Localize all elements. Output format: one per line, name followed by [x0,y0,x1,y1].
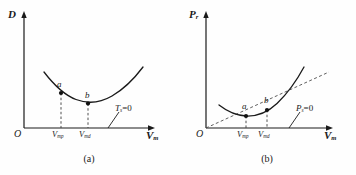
panel-a: D O Vm a b Vmp Vmd Ts=0 (a) [0,0,178,175]
annotation-leader-line [289,112,300,128]
point-a-label: a [242,102,247,111]
point-b-label: b [264,96,269,105]
x-axis-label-sub: m [153,134,158,141]
point-a-marker [59,91,63,95]
y-axis-label-sub: r [196,13,199,20]
tick-vmd-sub: md [84,133,90,139]
y-axis-arrowhead [21,11,26,18]
annotation-ts-zero: Ts=0 [115,104,132,113]
tick-vmp-sub: mp [57,133,63,139]
origin-label: O [14,129,21,139]
annotation-eq: =0 [122,103,132,113]
tick-label-vmd: Vmd [258,130,269,139]
panel-b-plot [178,0,356,175]
origin-label: O [196,129,203,139]
y-axis-label: D [8,9,16,20]
point-a-marker [244,114,248,118]
y-axis-arrowhead [203,11,208,18]
figure-container: D O Vm a b Vmp Vmd Ts=0 (a) [0,0,356,175]
tick-vmp-sub: mp [242,133,248,139]
tick-vmd-sub: md [263,133,269,139]
tick-label-vmp: Vmp [237,130,248,139]
annotation-leader-line [108,112,119,128]
tick-label-vmp: Vmp [52,130,63,139]
panel-a-plot [0,0,178,175]
x-axis-label-sub: m [331,134,336,141]
panel-a-caption: (a) [0,153,178,164]
y-axis-label: Pr [189,9,198,21]
power-required-curve [219,67,304,116]
point-b-marker [86,101,90,105]
y-axis-label-base: P [189,8,196,20]
tick-label-vmd: Vmd [79,130,90,139]
annotation-eq: =0 [304,103,314,113]
point-b-marker [265,108,269,112]
point-b-label: b [85,91,90,100]
annotation-ps-zero: Ps=0 [296,104,313,113]
x-axis-label: Vm [324,130,336,142]
x-axis-label: Vm [146,130,158,142]
panel-b: Pr O Vm a b Vmp Vmd Ps=0 (b) [178,0,356,175]
point-a-label: a [57,80,62,89]
panel-b-caption: (b) [178,153,356,164]
